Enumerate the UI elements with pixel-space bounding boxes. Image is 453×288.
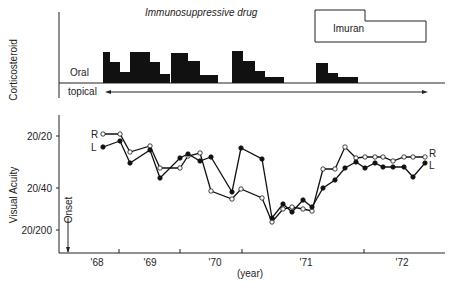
svg-text:Immunosuppressive drug: Immunosuppressive drug [145, 7, 258, 18]
svg-text:R: R [91, 129, 98, 140]
svg-text:topical: topical [68, 86, 97, 97]
svg-text:'70: '70 [208, 257, 221, 268]
svg-text:(year): (year) [237, 268, 263, 279]
svg-text:Oral: Oral [70, 67, 89, 78]
svg-text:20/40: 20/40 [27, 183, 52, 194]
svg-text:20/200: 20/200 [21, 225, 52, 236]
chart: CorticosteroidImmunosuppressive drugOral… [0, 0, 453, 288]
svg-text:Visual Acuity: Visual Acuity [8, 167, 19, 224]
svg-text:Onset: Onset [63, 196, 74, 223]
svg-text:R: R [429, 148, 436, 159]
svg-text:'71: '71 [299, 257, 312, 268]
svg-text:'69: '69 [143, 257, 156, 268]
svg-text:Corticosteroid: Corticosteroid [8, 39, 19, 101]
svg-text:L: L [429, 160, 435, 171]
svg-text:20/20: 20/20 [27, 131, 52, 142]
svg-text:Imuran: Imuran [333, 23, 364, 34]
svg-text:L: L [91, 142, 97, 153]
svg-text:'72: '72 [395, 257, 408, 268]
svg-text:'68: '68 [90, 257, 103, 268]
